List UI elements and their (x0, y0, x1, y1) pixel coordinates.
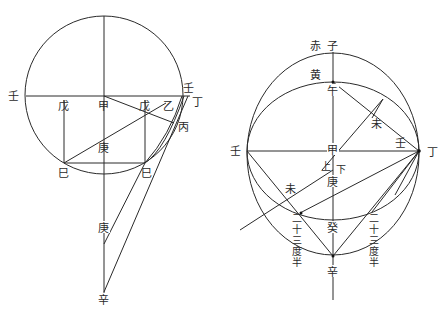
label-geng-lower: 庚 (98, 221, 109, 235)
left-line-si-yi (64, 103, 166, 163)
label-wu-right: 戊 (139, 100, 150, 113)
deg-left-0: 二 (292, 213, 302, 224)
point-wu (332, 81, 335, 84)
diagram-canvas: 壬 戊 甲 戊 乙 壬 丁 丙 庚 巳 巳 庚 辛 (0, 0, 443, 314)
deg-right-3: 度 (369, 245, 379, 257)
label-xin: 辛 (327, 265, 338, 279)
label-geng-upper: 庚 (98, 141, 109, 155)
short-perpendicular-wei (372, 99, 383, 118)
label-xia: 下 (336, 164, 346, 175)
label-wei-upper: 未 (371, 118, 382, 131)
label-bing: 丙 (178, 121, 189, 134)
deg-right-4: 半 (369, 256, 379, 268)
label-zi: 子 (327, 40, 338, 53)
label-ding: 丁 (192, 96, 203, 109)
label-jia: 甲 (327, 144, 338, 157)
deg-right-1: 十 (369, 223, 379, 235)
label-ren-left: 壬 (230, 145, 241, 158)
line-ding-ecliptic-right (372, 151, 419, 212)
label-huang: 黄 (310, 68, 321, 82)
label-ding: 丁 (427, 146, 438, 159)
label-ren-right: 壬 (183, 82, 194, 95)
degrees-annotation-left: 二 十 三 度 半 (292, 213, 302, 268)
label-shang: 上 (321, 161, 331, 172)
label-gui: 癸 (327, 221, 338, 235)
deg-left-4: 半 (292, 256, 302, 268)
point-xin (332, 255, 335, 258)
label-yi: 乙 (163, 100, 174, 113)
label-xin: 辛 (98, 293, 109, 307)
left-line-ding-xin (104, 96, 188, 292)
deg-left-2: 三 (292, 235, 302, 246)
line-geng-wei (322, 99, 383, 170)
label-wu-noon: 午 (327, 85, 338, 98)
point-ding (417, 149, 421, 153)
line-ding-ecliptic-left (300, 151, 419, 213)
label-jia: 甲 (98, 100, 109, 113)
label-si-left: 巳 (58, 167, 69, 180)
left-diagram: 壬 戊 甲 戊 乙 壬 丁 丙 庚 巳 巳 庚 辛 (8, 16, 203, 307)
label-wei-lower: 未 (285, 183, 296, 196)
label-chi: 赤 (310, 40, 321, 53)
label-wu-left: 戊 (58, 100, 69, 113)
deg-left-1: 十 (292, 223, 302, 235)
deg-right-2: 三 (369, 235, 379, 246)
label-geng: 庚 (327, 175, 338, 189)
deg-right-0: 二 (369, 213, 379, 224)
label-si-right: 巳 (141, 167, 152, 180)
deg-left-3: 度 (292, 245, 302, 257)
label-ren-left: 壬 (8, 90, 19, 103)
line-wu-ding (333, 82, 419, 151)
right-diagram: 赤 子 黄 午 未 壬 甲 壬 丁 上 下 庚 未 癸 辛 二 十 三 度 半 … (230, 40, 438, 300)
left-line-si-geng (104, 163, 145, 244)
label-ren-right: 壬 (395, 137, 406, 150)
degrees-annotation-right: 二 十 三 度 半 (369, 213, 379, 268)
